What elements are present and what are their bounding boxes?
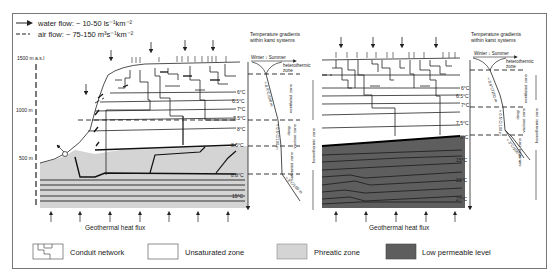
saturated-zone-label: saturated zone: [289, 151, 294, 180]
left-homothermic-bracket: homothermic zone: [311, 80, 316, 210]
isotherm-label: 8°C: [237, 126, 246, 132]
left-karst-section: 6°C 6.5°C 7°C 7.5°C 8°C 8.5°C 8.8°C 15°C: [40, 40, 248, 231]
vadose-zone-label: vadose zone: [521, 107, 526, 132]
isotherm-label: 7.5°C: [456, 120, 469, 126]
gradient-subtitle: within karst systems: [471, 37, 516, 43]
elevation-tick-1500: 1500 m a.s.l: [17, 55, 44, 61]
vadose-zone-label: vadose zone: [292, 123, 297, 148]
legend-label: Unsaturated zone: [185, 248, 244, 257]
gradient-value: ≈ 0.5°C/100 m: [275, 124, 280, 150]
isotherm-label: 6.5°C: [456, 93, 469, 99]
left-gradient-panel: Temperature gradients within karst syste…: [248, 31, 311, 201]
gradient-value: ≈ 0.8°C/100 m: [486, 77, 499, 104]
gradient-value: ≈ 0.5°C/100 m: [498, 110, 503, 136]
deep-label: deep: [515, 109, 520, 119]
isotherm-label: 8.8°C: [231, 172, 244, 178]
flow-legend: water flow: ~ 10-50 ls⁻¹km⁻² air flow: ~…: [16, 19, 134, 39]
geothermal-heat-flux-label: Geothermal heat flux: [369, 224, 430, 231]
water-flow-label: water flow: ~ 10-50 ls⁻¹km⁻²: [37, 19, 133, 28]
right-karst-section: 6°C 6.5°C 7°C 7.5°C 8°C 15°C 21°C 27°C: [322, 37, 470, 231]
homothermic-zone-label: homothermic zone: [311, 127, 316, 163]
phreatic-zone-swatch: [277, 244, 307, 259]
legend-label: Phreatic zone: [314, 248, 360, 257]
heterothermic-label-2: zone: [506, 64, 516, 69]
legend-item-conduit-network: Conduit network: [33, 244, 124, 259]
isotherm-label: 6°C: [461, 85, 470, 91]
legend-item-low-permeable-level: Low permeable level: [386, 244, 491, 259]
isotherm-label: 8°C: [460, 134, 469, 140]
unsaturated-zone-swatch: [148, 244, 178, 259]
season-label: Winter ↕ Summer: [251, 55, 286, 60]
isotherm-label: 15°C: [456, 157, 468, 163]
gradient-subtitle: within karst systems: [250, 37, 295, 43]
gradient-value: ≈ 0.8°C/100 m: [263, 81, 275, 108]
ventilated-zone-label: ventilated zone: [288, 83, 293, 113]
legend-label: Low permeable level: [422, 248, 491, 257]
heterothermic-label-2: zone: [283, 68, 293, 73]
legend-label: Conduit network: [70, 248, 124, 257]
isotherm-label: 6°C: [237, 89, 246, 95]
isotherm-label: 27°C: [456, 196, 468, 202]
saturated-zone-label: saturated zone: [517, 137, 522, 166]
ventilated-zone-label: ventilated zone: [523, 73, 528, 103]
elevation-tick-1000: 1000 m: [16, 107, 33, 113]
isotherm-label: 8.5°C: [231, 142, 244, 148]
karst-diagram: water flow: ~ 10-50 ls⁻¹km⁻² air flow: ~…: [0, 0, 557, 274]
season-label: Winter ↕ Summer: [474, 51, 509, 56]
isotherm-label: 7°C: [461, 102, 470, 108]
isotherm-label: 15°C: [232, 193, 244, 199]
legend-item-phreatic-zone: Phreatic zone: [277, 244, 360, 259]
deep-label: deep: [286, 125, 291, 135]
isotherm-label: 7°C: [237, 106, 246, 112]
geothermal-heat-flux-label: Geothermal heat flux: [85, 224, 146, 231]
legend-item-unsaturated-zone: Unsaturated zone: [148, 244, 244, 259]
elevation-tick-500: 500 m: [19, 155, 33, 161]
homothermic-zone-label: homothermic zone: [534, 107, 539, 143]
conduit-network-swatch: [33, 244, 63, 259]
isotherm-label: 21°C: [456, 177, 468, 183]
low-permeable-swatch: [386, 244, 416, 259]
phreatic-zone: [40, 146, 248, 208]
bottom-legend: Conduit network Unsaturated zone Phreati…: [33, 244, 491, 259]
isotherm-label: 6.5°C: [232, 98, 245, 104]
air-flow-label: air flow: ~ 75-150 m³s⁻¹km⁻²: [38, 30, 134, 39]
right-gradient-panel: Temperature gradients within karst syste…: [470, 31, 539, 200]
